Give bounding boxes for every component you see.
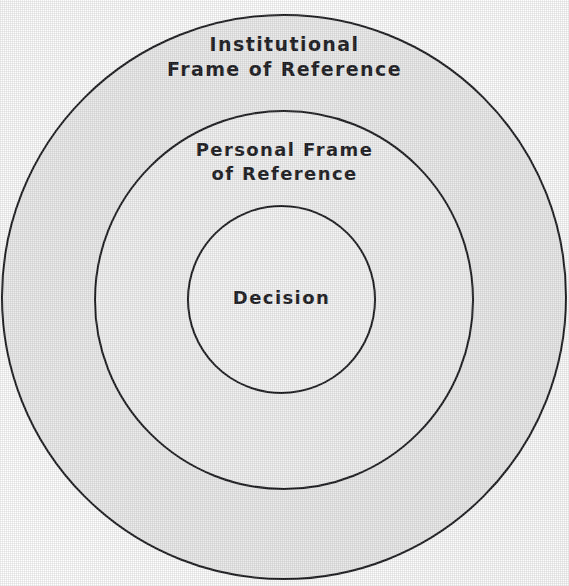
- label-decision: Decision: [187, 286, 376, 310]
- label-personal-frame: Personal Frame of Reference: [0, 138, 569, 186]
- diagram-canvas: Institutional Frame of Reference Persona…: [0, 0, 569, 586]
- label-institutional-frame: Institutional Frame of Reference: [0, 32, 569, 82]
